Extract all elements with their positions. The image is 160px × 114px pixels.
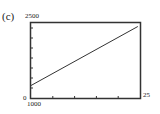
chart-plot (0, 0, 160, 114)
data-line (31, 27, 138, 86)
axis-ticks (31, 28, 118, 98)
